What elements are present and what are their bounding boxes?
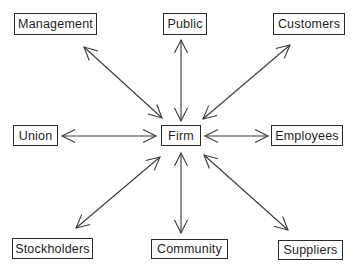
node-union: Union bbox=[13, 125, 58, 146]
node-label: Employees bbox=[275, 129, 339, 143]
node-label: Union bbox=[19, 129, 53, 143]
node-label: Public bbox=[167, 17, 202, 31]
arrow-firm-customers bbox=[203, 45, 290, 119]
node-stockholders: Stockholders bbox=[12, 238, 93, 259]
node-firm-center: Firm bbox=[161, 125, 201, 146]
node-label: Firm bbox=[168, 129, 194, 143]
arrow-firm-public bbox=[175, 40, 188, 121]
node-management: Management bbox=[14, 13, 97, 35]
node-community: Community bbox=[151, 239, 228, 259]
arrow-firm-employees bbox=[205, 130, 268, 143]
arrow-firm-union bbox=[62, 130, 156, 143]
arrow-firm-community bbox=[175, 153, 188, 233]
stakeholder-diagram: Management Public Customers Union Employ… bbox=[0, 0, 358, 278]
arrow-firm-suppliers bbox=[204, 155, 288, 230]
node-employees: Employees bbox=[271, 125, 343, 146]
arrow-firm-management bbox=[84, 47, 162, 118]
node-label: Suppliers bbox=[284, 243, 338, 257]
node-label: Management bbox=[18, 17, 93, 31]
node-public: Public bbox=[163, 13, 207, 35]
node-label: Community bbox=[157, 242, 222, 256]
node-suppliers: Suppliers bbox=[278, 240, 343, 260]
node-label: Stockholders bbox=[15, 242, 90, 256]
node-customers: Customers bbox=[273, 13, 345, 35]
node-label: Customers bbox=[278, 17, 340, 31]
arrow-firm-stockholders bbox=[76, 157, 160, 228]
